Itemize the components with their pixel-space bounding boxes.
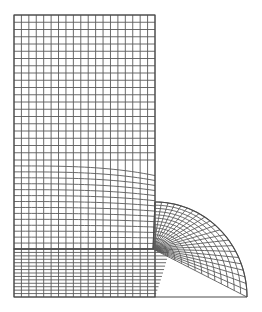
- lower-block-fine-mesh: [14, 249, 155, 297]
- fe-mesh-diagram: [0, 0, 262, 312]
- quarter-disc-radial-mesh: [153, 202, 247, 297]
- upper-block-mesh: [14, 15, 155, 249]
